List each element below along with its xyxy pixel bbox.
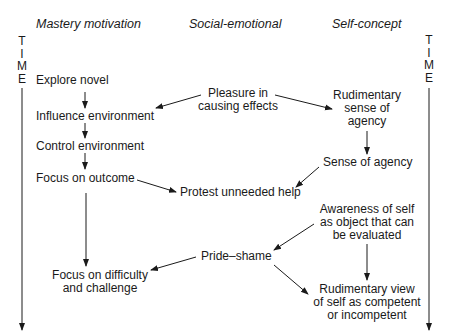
node-focus-on-outcome: Focus on outcome	[36, 172, 135, 185]
node-line: be evaluated	[320, 229, 415, 242]
node-influence-environment: Influence environment	[36, 110, 154, 123]
arrow-awareness-to-pride	[274, 224, 314, 250]
node-rudimentary-view-of-self: Rudimentary view of self as competent or…	[313, 283, 420, 322]
time-letter: E	[423, 72, 435, 85]
column-header-self-concept: Self-concept	[332, 17, 401, 31]
time-letter: T	[16, 35, 28, 48]
arrow-pleasure-to-influence	[156, 95, 201, 108]
node-line: or incompetent	[313, 309, 420, 322]
arrow-pride-to-rudimentary-view	[274, 265, 308, 294]
time-letter: E	[16, 73, 28, 86]
column-header-mastery-motivation: Mastery motivation	[36, 17, 141, 31]
node-pleasure-in-causing-effects: Pleasure in causing effects	[198, 87, 278, 113]
node-line: agency	[333, 115, 401, 128]
development-diagram: Mastery motivation Social-emotional Self…	[0, 0, 451, 336]
node-focus-on-difficulty: Focus on difficulty and challenge	[52, 269, 148, 295]
node-explore-novel: Explore novel	[36, 74, 109, 87]
node-protest-unneeded-help: Protest unneeded help	[180, 186, 301, 199]
arrow-outcome-to-protest	[137, 180, 176, 192]
arrow-pleasure-to-rudimentary-agency	[275, 95, 332, 109]
time-label-right: T I M E	[423, 34, 435, 84]
node-control-environment: Control environment	[36, 140, 144, 153]
time-label-left: T I M E	[16, 35, 28, 85]
time-letter: T	[423, 34, 435, 47]
node-line: and challenge	[52, 282, 148, 295]
node-rudimentary-sense-of-agency: Rudimentary sense of agency	[333, 89, 401, 128]
time-letter: M	[423, 59, 435, 72]
arrow-sense-agency-to-protest	[296, 167, 319, 187]
node-sense-of-agency: Sense of agency	[323, 156, 412, 169]
arrow-pride-to-difficulty	[151, 257, 196, 270]
column-header-social-emotional: Social-emotional	[189, 17, 281, 31]
node-awareness-of-self: Awareness of self as object that can be …	[320, 203, 415, 242]
node-line: causing effects	[198, 100, 278, 113]
time-letter: M	[16, 60, 28, 73]
node-pride-shame: Pride–shame	[201, 250, 272, 263]
